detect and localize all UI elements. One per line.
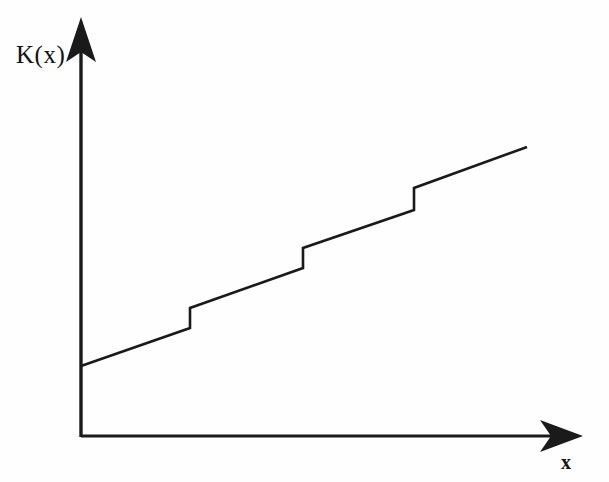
figure-canvas: K(x) x (0, 0, 609, 482)
step-function-curve (81, 147, 527, 366)
plot-svg (0, 0, 609, 482)
y-axis-label: K(x) (16, 41, 65, 69)
x-axis-label: x (561, 451, 571, 474)
